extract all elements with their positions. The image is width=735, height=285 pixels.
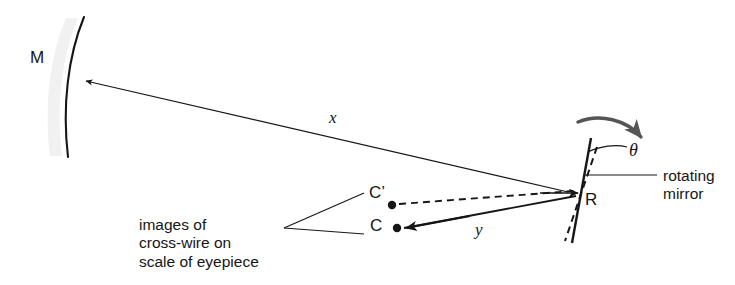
leader-line-c-prime	[284, 193, 364, 228]
theta-angle-arc	[588, 146, 627, 152]
ray-y-arrowhead	[406, 216, 470, 228]
label-image-c: C	[370, 216, 382, 236]
label-mirror-m: M	[30, 48, 44, 68]
label-rotating-mirror-point-r: R	[585, 190, 597, 210]
label-distance-y: y	[475, 220, 483, 240]
label-distance-x: x	[329, 108, 337, 128]
label-angle-theta: θ	[629, 140, 638, 161]
rotation-direction-arrow	[578, 118, 641, 137]
diagram-canvas	[0, 0, 735, 285]
image-point-c	[393, 224, 401, 232]
leader-line-c	[284, 228, 364, 234]
label-image-c-prime: C’	[369, 183, 385, 203]
concave-mirror-shadow	[48, 18, 78, 156]
label-images-caption: images of cross-wire on scale of eyepiec…	[139, 216, 259, 271]
optics-diagram: M R C’ C x y θ rotating mirror images of…	[0, 0, 735, 285]
image-point-c-prime	[388, 201, 396, 209]
ray-x-line	[86, 81, 568, 192]
label-rotating-mirror: rotating mirror	[663, 167, 715, 204]
